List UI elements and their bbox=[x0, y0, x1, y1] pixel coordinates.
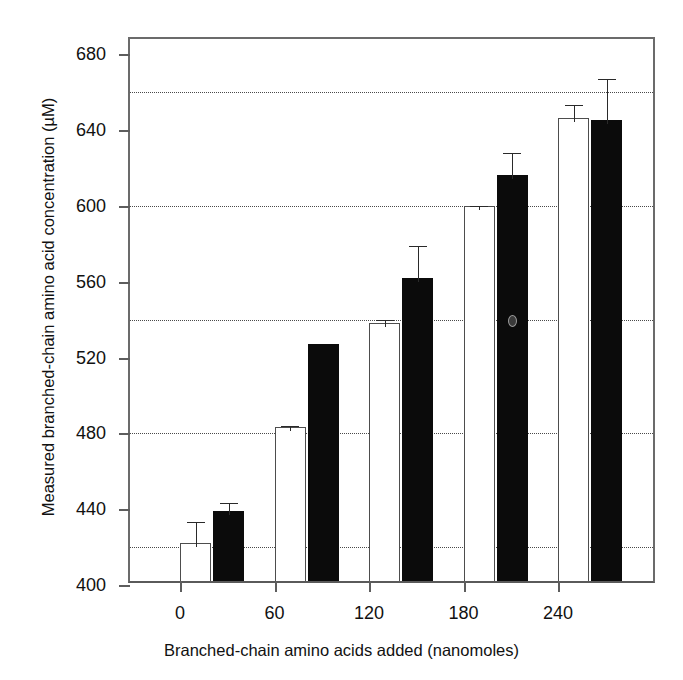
scan-artifact-speck bbox=[508, 315, 517, 327]
y-tick-680 bbox=[119, 54, 130, 56]
bar-open-120 bbox=[369, 323, 400, 581]
x-tick-180 bbox=[464, 581, 466, 592]
y-tick-label-480: 480 bbox=[36, 424, 106, 442]
x-axis-title: Branched-chain amino acids added (nanomo… bbox=[0, 641, 683, 660]
bar-filled-180 bbox=[497, 175, 528, 581]
y-tick-label-680: 680 bbox=[36, 45, 106, 63]
error-bar-cap-open-0 bbox=[187, 522, 205, 523]
x-tick-label-0: 0 bbox=[150, 603, 210, 624]
chart-figure: Measured branched-chain amino acid conce… bbox=[0, 0, 683, 680]
error-bar-line-open-0 bbox=[196, 522, 197, 547]
y-tick-480 bbox=[119, 433, 130, 435]
y-tick-600 bbox=[119, 206, 130, 208]
error-bar-cap-open-180 bbox=[470, 206, 488, 207]
error-bar-line-filled-180 bbox=[512, 153, 513, 180]
error-bar-line-open-120 bbox=[385, 320, 386, 328]
x-tick-label-120: 120 bbox=[339, 603, 399, 624]
x-tick-0 bbox=[180, 581, 182, 592]
error-bar-line-filled-120 bbox=[418, 246, 419, 282]
bar-open-0 bbox=[180, 543, 211, 581]
y-tick-label-440: 440 bbox=[36, 500, 106, 518]
y-tick-520 bbox=[119, 358, 130, 360]
error-bar-line-filled-240 bbox=[607, 79, 608, 125]
error-bar-cap-open-120 bbox=[376, 320, 394, 321]
y-tick-440 bbox=[119, 509, 130, 511]
y-tick-label-600: 600 bbox=[36, 197, 106, 215]
y-tick-label-400: 400 bbox=[36, 576, 106, 594]
error-bar-cap-open-60 bbox=[281, 426, 299, 427]
error-bar-line-open-240 bbox=[574, 105, 575, 122]
x-tick-label-180: 180 bbox=[434, 603, 494, 624]
y-tick-560 bbox=[119, 282, 130, 284]
y-tick-label-520: 520 bbox=[36, 349, 106, 367]
x-tick-label-60: 60 bbox=[245, 603, 305, 624]
plot-area: 400440480520560600640680060120180240 bbox=[128, 37, 655, 583]
x-tick-120 bbox=[369, 581, 371, 592]
error-bar-line-filled-0 bbox=[229, 503, 230, 514]
bar-open-180 bbox=[464, 206, 495, 581]
bar-filled-0 bbox=[213, 511, 244, 581]
x-tick-60 bbox=[275, 581, 277, 592]
error-bar-cap-filled-240 bbox=[598, 79, 616, 80]
bar-filled-60 bbox=[308, 344, 339, 581]
y-tick-label-640: 640 bbox=[36, 121, 106, 139]
error-bar-cap-open-240 bbox=[565, 105, 583, 106]
error-bar-cap-filled-0 bbox=[220, 503, 238, 504]
bar-open-240 bbox=[558, 118, 589, 581]
y-tick-400 bbox=[119, 585, 130, 587]
gridline-660 bbox=[130, 92, 653, 93]
error-bar-cap-filled-120 bbox=[409, 246, 427, 247]
error-bar-cap-filled-180 bbox=[503, 153, 521, 154]
x-tick-label-240: 240 bbox=[528, 603, 588, 624]
x-tick-240 bbox=[558, 581, 560, 592]
bar-filled-120 bbox=[402, 278, 433, 581]
y-tick-640 bbox=[119, 130, 130, 132]
bar-open-60 bbox=[275, 427, 306, 581]
y-tick-label-560: 560 bbox=[36, 273, 106, 291]
bar-filled-240 bbox=[591, 120, 622, 581]
